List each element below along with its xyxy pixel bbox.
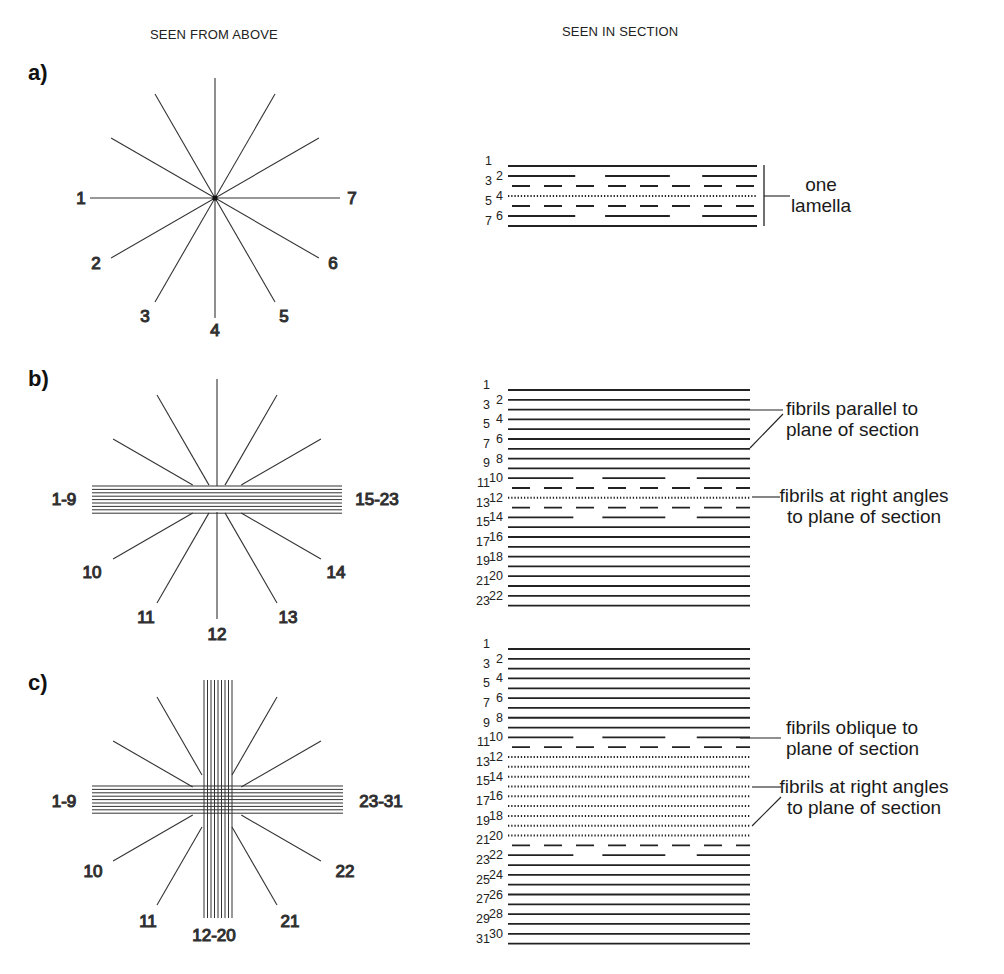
layer-number-5: 5: [485, 194, 492, 208]
layer-number-9: 9: [483, 456, 490, 470]
line-label-11: 11: [139, 912, 157, 931]
layer-number-15: 15: [476, 774, 490, 788]
layer-number-24: 24: [489, 868, 503, 882]
layer-number-10: 10: [489, 471, 503, 485]
layer-number-17: 17: [476, 535, 490, 549]
layer-number-30: 30: [489, 927, 503, 941]
layer-number-4: 4: [496, 671, 503, 685]
line-label-6: 6: [328, 254, 337, 273]
line-label-5: 5: [279, 307, 288, 326]
layer-number-16: 16: [489, 530, 503, 544]
layer-number-4: 4: [496, 189, 503, 203]
band-label-15-23: 15-23: [355, 490, 398, 509]
layer-number-26: 26: [489, 888, 503, 902]
layer-number-2: 2: [496, 652, 503, 666]
annotation-right-angles-b-line1: fibrils at right angles: [780, 485, 949, 506]
layer-number-6: 6: [496, 432, 503, 446]
layer-number-14: 14: [489, 510, 503, 524]
annotation-one-lamella-line2: lamella: [791, 195, 852, 216]
line-label-3: 3: [140, 307, 149, 326]
layer-number-23: 23: [476, 853, 490, 867]
layer-number-22: 22: [489, 848, 503, 862]
annotation-right-angles-c-line2: to plane of section: [787, 797, 941, 818]
layer-number-8: 8: [496, 711, 503, 725]
panel-b-section-view: 1234567891011121314151617181920212223: [476, 378, 750, 608]
layer-number-31: 31: [476, 932, 490, 946]
layer-number-1: 1: [483, 637, 490, 651]
layer-number-20: 20: [489, 569, 503, 583]
line-label-1: 1: [76, 189, 85, 208]
band-label-12-20: 12-20: [192, 926, 235, 945]
layer-number-3: 3: [483, 398, 490, 412]
layer-number-7: 7: [485, 214, 492, 228]
layer-number-5: 5: [483, 417, 490, 431]
layer-number-17: 17: [476, 794, 490, 808]
layer-number-6: 6: [496, 691, 503, 705]
layer-number-3: 3: [485, 174, 492, 188]
band-label-1-9: 1-9: [52, 792, 77, 811]
layer-number-2: 2: [496, 393, 503, 407]
layer-number-13: 13: [476, 755, 490, 769]
annotation-one-lamella-line1: one: [805, 174, 837, 195]
layer-number-1: 1: [485, 154, 492, 168]
annotation-right-angles-b-line2: to plane of section: [787, 506, 941, 527]
layer-number-7: 7: [483, 437, 490, 451]
layer-number-28: 28: [489, 907, 503, 921]
annotation-oblique-line1: fibrils oblique to: [786, 717, 918, 738]
line-label-12: 12: [208, 625, 227, 644]
layer-number-20: 20: [489, 829, 503, 843]
panel-c-section-view: 1234567891011121314151617181920212223242…: [476, 637, 750, 946]
layer-number-5: 5: [483, 676, 490, 690]
panel-b-above-view: 1-915-231011121314: [52, 379, 399, 644]
layer-number-13: 13: [476, 496, 490, 510]
layer-number-22: 22: [489, 589, 503, 603]
line-label-2: 2: [91, 254, 100, 273]
layer-number-27: 27: [476, 892, 490, 906]
layer-number-2: 2: [496, 169, 503, 183]
layer-number-15: 15: [476, 515, 490, 529]
layer-number-18: 18: [489, 809, 503, 823]
annotation-parallel-line2: plane of section: [786, 419, 919, 440]
layer-number-12: 12: [489, 491, 503, 505]
layer-number-4: 4: [496, 412, 503, 426]
line-label-7: 7: [347, 189, 356, 208]
layer-number-11: 11: [477, 735, 490, 749]
layer-number-18: 18: [489, 550, 503, 564]
layer-number-21: 21: [476, 574, 490, 588]
annotation-parallel-line1: fibrils parallel to: [786, 398, 918, 419]
panel-a-above-view: 1234567: [76, 78, 356, 340]
layer-number-10: 10: [489, 730, 503, 744]
annotation-right-angles-c-line1: fibrils at right angles: [780, 776, 949, 797]
layer-number-7: 7: [483, 696, 490, 710]
band-label-1-9: 1-9: [52, 490, 77, 509]
panel-a-section-view: 1234567: [485, 154, 790, 228]
line-label-14: 14: [327, 563, 346, 582]
line-label-10: 10: [83, 563, 102, 582]
layer-number-23: 23: [476, 594, 490, 608]
line-label-13: 13: [279, 608, 298, 627]
layer-number-16: 16: [489, 789, 503, 803]
panel-c-above-view: 1-923-3112-2010112122: [52, 680, 403, 945]
band-label-23-31: 23-31: [359, 792, 402, 811]
line-label-4: 4: [210, 321, 219, 340]
layer-number-19: 19: [476, 554, 490, 568]
layer-number-19: 19: [476, 814, 490, 828]
layer-number-21: 21: [476, 833, 490, 847]
annotation-oblique-line2: plane of section: [786, 738, 919, 759]
layer-number-29: 29: [476, 912, 490, 926]
layer-number-11: 11: [477, 476, 490, 490]
line-label-10: 10: [84, 862, 103, 881]
layer-number-14: 14: [489, 770, 503, 784]
layer-number-8: 8: [496, 452, 503, 466]
layer-number-1: 1: [483, 378, 490, 392]
layer-number-12: 12: [489, 750, 503, 764]
layer-number-25: 25: [476, 873, 490, 887]
line-label-22: 22: [336, 862, 355, 881]
line-label-21: 21: [281, 912, 300, 931]
lamella-diagram: 1234567 1-915-231011121314 1-923-3112-20…: [0, 0, 1004, 974]
annotations: onelamellafibrils parallel toplane of se…: [740, 174, 948, 826]
layer-number-9: 9: [483, 716, 490, 730]
layer-number-6: 6: [496, 209, 503, 223]
line-label-11: 11: [137, 608, 155, 627]
layer-number-3: 3: [483, 657, 490, 671]
